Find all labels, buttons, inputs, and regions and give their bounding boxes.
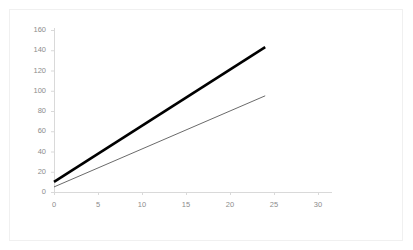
x-tick-label-25: 25	[262, 201, 286, 209]
y-tick-label-0: 0	[24, 188, 46, 196]
plot-area	[0, 0, 413, 250]
x-tick-label-5: 5	[86, 201, 110, 209]
y-tick-label-120: 120	[24, 67, 46, 75]
y-tick-label-40: 40	[24, 148, 46, 156]
axis-ticks	[51, 31, 319, 196]
axis-lines	[54, 28, 332, 193]
y-tick-label-80: 80	[24, 107, 46, 115]
x-tick-label-10: 10	[130, 201, 154, 209]
x-tick-label-20: 20	[218, 201, 242, 209]
x-tick-label-0: 0	[42, 201, 66, 209]
y-tick-label-20: 20	[24, 168, 46, 176]
series-line-series-1-thick	[54, 47, 265, 182]
chart-container: 020406080100120140160 051015202530	[0, 0, 413, 250]
x-tick-label-15: 15	[174, 201, 198, 209]
y-tick-label-60: 60	[24, 127, 46, 135]
series-line-series-2-thin	[54, 96, 265, 187]
y-tick-label-160: 160	[24, 26, 46, 34]
x-tick-label-30: 30	[306, 201, 330, 209]
y-tick-label-100: 100	[24, 87, 46, 95]
y-tick-label-140: 140	[24, 46, 46, 54]
data-series-lines	[54, 47, 265, 187]
